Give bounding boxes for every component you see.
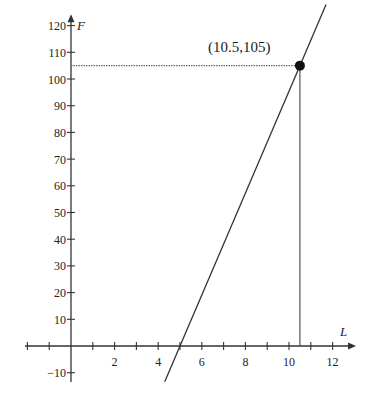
- x-tick-label: 2: [112, 355, 118, 369]
- x-axis-arrow-icon: [348, 343, 356, 350]
- x-tick-label: 12: [327, 355, 339, 369]
- y-tick-label: 120: [48, 19, 66, 33]
- x-axis-label: L: [339, 324, 347, 339]
- point-annotation: (10.5,105): [208, 39, 271, 56]
- axes: [25, 14, 356, 382]
- x-tick-label: 6: [199, 355, 205, 369]
- y-tick-label: 100: [48, 73, 66, 87]
- y-tick-label: −10: [47, 366, 66, 380]
- y-axis-label: F: [76, 18, 86, 33]
- y-tick-label: 20: [54, 286, 66, 300]
- chart: 24681012−10102030405060708090100110120 (…: [0, 0, 369, 410]
- y-tick-label: 60: [54, 179, 66, 193]
- y-tick-label: 40: [54, 233, 66, 247]
- x-tick-label: 4: [155, 355, 161, 369]
- y-tick-label: 50: [54, 206, 66, 220]
- y-tick-label: 10: [54, 313, 66, 327]
- x-tick-label: 10: [283, 355, 295, 369]
- y-tick-label: 80: [54, 126, 66, 140]
- x-tick-label: 8: [242, 355, 248, 369]
- ticks: 24681012−10102030405060708090100110120: [27, 19, 338, 380]
- data-points: [295, 61, 305, 71]
- y-tick-label: 70: [54, 153, 66, 167]
- data-point-marker: [295, 61, 305, 71]
- y-axis-arrow-icon: [68, 14, 75, 22]
- y-tick-label: 30: [54, 259, 66, 273]
- y-tick-label: 110: [48, 46, 66, 60]
- guide-lines: [71, 66, 300, 346]
- y-tick-label: 90: [54, 99, 66, 113]
